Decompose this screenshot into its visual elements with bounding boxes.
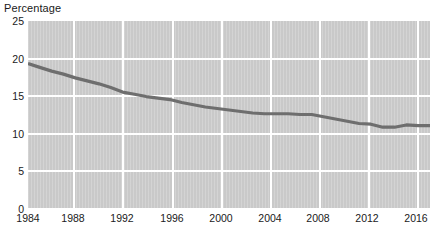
x-tick-label-2008: 2008 [296,213,340,224]
x-tick-label-1996: 1996 [150,213,194,224]
chart-container: Percentage 25 20 15 10 5 0 1984 1988 199… [0,0,432,233]
y-tick-label-20: 20 [0,54,24,64]
y-tick-label-10: 10 [0,129,24,139]
chart-title: Percentage [4,2,61,14]
y-tick-label-25: 25 [0,16,24,26]
x-tick-label-2012: 2012 [345,213,389,224]
plot-area [28,21,430,208]
x-tick-label-1988: 1988 [51,213,95,224]
data-series-line [28,21,430,208]
x-tick-label-2004: 2004 [248,213,292,224]
y-tick-label-15: 15 [0,91,24,101]
y-tick-label-5: 5 [0,166,24,176]
x-tick-label-2000: 2000 [199,213,243,224]
x-tick-label-1992: 1992 [100,213,144,224]
x-tick-label-1984: 1984 [6,213,50,224]
x-tick-label-2016: 2016 [394,213,432,224]
